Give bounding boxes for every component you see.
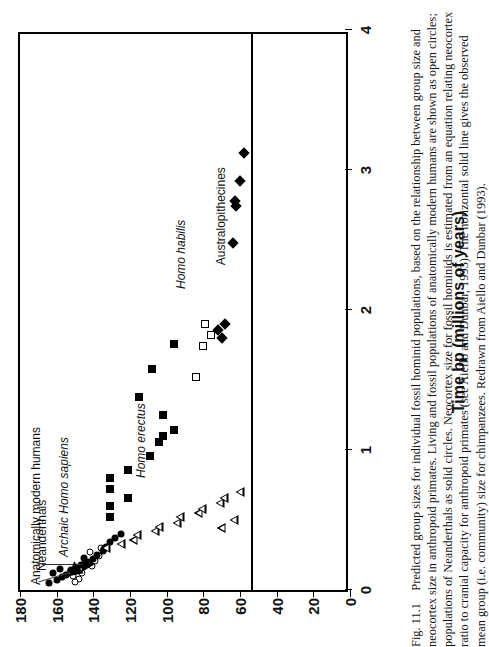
x-tick bbox=[345, 169, 352, 170]
y-tick bbox=[277, 590, 278, 597]
data-point-solid-circle bbox=[57, 566, 64, 573]
data-point-solid-diamond bbox=[234, 176, 245, 187]
y-tick bbox=[57, 590, 58, 597]
y-tick-label: 180 bbox=[12, 598, 29, 632]
data-point-open-triangle bbox=[176, 512, 185, 522]
data-point-solid-square bbox=[124, 466, 132, 474]
y-tick-label: 20 bbox=[305, 598, 322, 632]
plot-wrapper: Anatomically modern humansNeanderthalsAr… bbox=[0, 0, 410, 647]
rotated-figure-container: Anatomically modern humansNeanderthalsAr… bbox=[0, 0, 410, 647]
data-point-open-triangle bbox=[102, 543, 111, 553]
data-point-open-circle bbox=[86, 549, 93, 556]
y-tick bbox=[240, 590, 241, 597]
y-tick-label: 60 bbox=[232, 598, 249, 632]
x-tick-label: 3 bbox=[357, 166, 374, 174]
figure-caption-label: Fig. 11.1 bbox=[409, 603, 423, 647]
data-point-solid-circle bbox=[46, 580, 53, 587]
annotation-label: Australopithecines bbox=[214, 167, 228, 265]
x-tick bbox=[345, 29, 352, 30]
data-point-solid-square bbox=[106, 513, 114, 521]
x-tick-label: 2 bbox=[357, 306, 374, 314]
y-tick bbox=[167, 590, 168, 597]
data-point-solid-square bbox=[159, 432, 167, 440]
data-point-solid-square bbox=[170, 340, 178, 348]
y-tick-label: 120 bbox=[122, 598, 139, 632]
x-tick-label: 0 bbox=[357, 586, 374, 594]
x-tick bbox=[345, 449, 352, 450]
y-tick-label: 100 bbox=[158, 598, 175, 632]
data-point-solid-square bbox=[170, 426, 178, 434]
y-tick bbox=[350, 590, 351, 597]
y-tick bbox=[203, 590, 204, 597]
y-tick bbox=[20, 590, 21, 597]
y-tick-label: 80 bbox=[195, 598, 212, 632]
data-point-open-triangle bbox=[230, 515, 239, 525]
annotation-label: Homo erectus bbox=[134, 403, 148, 478]
data-point-open-square bbox=[192, 373, 200, 381]
data-point-open-square bbox=[201, 320, 209, 328]
data-point-solid-diamond bbox=[227, 237, 238, 248]
y-tick bbox=[93, 590, 94, 597]
rotated-caption-container: Fig. 11.1 Predicted group sizes for indi… bbox=[408, 0, 470, 647]
data-point-solid-square bbox=[106, 474, 114, 482]
data-point-open-triangle bbox=[116, 539, 125, 549]
data-point-solid-square bbox=[159, 411, 167, 419]
data-point-solid-square bbox=[106, 502, 114, 510]
plot-axes-frame: Anatomically modern humansNeanderthalsAr… bbox=[18, 32, 348, 592]
y-tick-label: 0 bbox=[342, 598, 359, 632]
data-point-open-square bbox=[199, 342, 207, 350]
data-point-open-triangle bbox=[235, 487, 244, 497]
data-point-solid-diamond bbox=[238, 148, 249, 159]
data-point-solid-square bbox=[106, 485, 114, 493]
data-point-open-triangle bbox=[217, 523, 226, 533]
y-tick bbox=[130, 590, 131, 597]
data-point-open-triangle bbox=[197, 504, 206, 514]
figure-caption: Fig. 11.1 Predicted group sizes for indi… bbox=[408, 7, 489, 647]
y-tick bbox=[313, 590, 314, 597]
data-point-open-triangle bbox=[219, 493, 228, 503]
data-point-solid-circle bbox=[117, 531, 124, 538]
annotation-label: Homo habilis bbox=[174, 220, 188, 289]
annotation-label: Neanderthals bbox=[35, 500, 49, 571]
data-point-solid-square bbox=[148, 365, 156, 373]
data-point-solid-square bbox=[124, 494, 132, 502]
annotation-label: Archaic Homo sapiens bbox=[57, 437, 71, 557]
data-point-open-triangle bbox=[132, 530, 141, 540]
x-tick-label: 1 bbox=[357, 446, 374, 454]
y-tick-label: 140 bbox=[85, 598, 102, 632]
x-tick bbox=[345, 309, 352, 310]
y-tick-label: 160 bbox=[48, 598, 65, 632]
x-tick-label: 4 bbox=[357, 26, 374, 34]
data-point-solid-square bbox=[135, 393, 143, 401]
chimpanzee-reference-line bbox=[251, 34, 253, 590]
data-point-open-square bbox=[207, 331, 215, 339]
data-point-open-triangle bbox=[154, 522, 163, 532]
y-tick-label: 40 bbox=[268, 598, 285, 632]
figure-caption-text: Predicted group sizes for individual fos… bbox=[409, 12, 488, 647]
